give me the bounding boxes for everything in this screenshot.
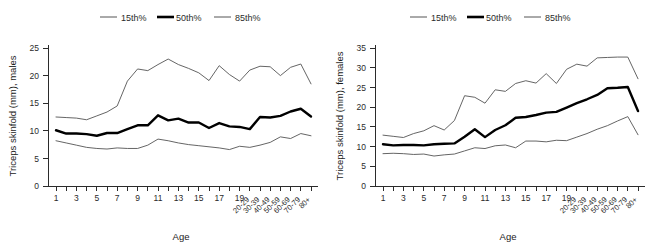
females-x-label-13: 13 xyxy=(501,193,511,203)
females-x-label-3: 3 xyxy=(401,193,406,203)
females-xlabel: Age xyxy=(500,231,517,242)
legend-label-85th: 85th% xyxy=(235,13,261,23)
males-y-label-0: 0 xyxy=(34,181,39,191)
females-x-label-1: 1 xyxy=(381,193,386,203)
legend-label-50th: 50th% xyxy=(176,13,202,23)
males-y-label-20: 20 xyxy=(30,71,40,81)
females-x-label-9: 9 xyxy=(462,193,467,203)
males-x-ticks xyxy=(56,186,311,191)
females-y-label-20: 20 xyxy=(357,102,367,112)
females-x-label-80+: 80+ xyxy=(624,195,640,211)
males-chart-svg: 15th% 50th% 85th% 0 5 10 15 xyxy=(0,0,326,246)
males-ylabel: Triceps skinfold (mm), males xyxy=(7,55,18,176)
females-x-label-5: 5 xyxy=(421,193,426,203)
females-y-label-10: 10 xyxy=(357,142,367,152)
females-x-label-15: 15 xyxy=(521,193,531,203)
legend-label-85th: 85th% xyxy=(545,13,571,23)
females-y-label-5: 5 xyxy=(361,161,366,171)
males-x-label-80+: 80+ xyxy=(297,195,313,211)
males-x-label-1: 1 xyxy=(54,193,59,203)
males-x-label-15: 15 xyxy=(194,193,204,203)
females-y-ticks: 05101520253035 xyxy=(357,43,375,191)
males-x-label-11: 11 xyxy=(154,193,163,203)
females-chart-svg: 15th% 50th% 85th% 05101520253035 1357911… xyxy=(327,0,653,246)
males-y-label-10: 10 xyxy=(30,126,40,136)
females-series-85th xyxy=(383,57,638,137)
males-x-label-7: 7 xyxy=(115,193,120,203)
figure-root: 15th% 50th% 85th% 0 5 10 15 xyxy=(0,0,653,246)
females-y-label-35: 35 xyxy=(357,43,367,53)
females-ylabel: Triceps skinfold (mm), females xyxy=(334,51,345,180)
males-x-rotated-labels: 20-2930-3940-4950-5960-6970-7980+ xyxy=(231,195,313,216)
legend-label-50th: 50th% xyxy=(486,13,512,23)
females-y-label-30: 30 xyxy=(357,63,367,73)
legend-females: 15th% 50th% 85th% xyxy=(410,13,571,23)
males-y-label-25: 25 xyxy=(30,43,40,53)
females-x-label-7: 7 xyxy=(442,193,447,203)
females-x-label-17: 17 xyxy=(541,193,551,203)
males-x-label-9: 9 xyxy=(135,193,140,203)
chart-panel-females: 15th% 50th% 85th% 05101520253035 1357911… xyxy=(327,0,653,246)
females-series-50th xyxy=(383,87,638,145)
males-xlabel: Age xyxy=(173,231,190,242)
males-y-label-5: 5 xyxy=(34,154,39,164)
legend-label-15th: 15th% xyxy=(121,13,147,23)
females-y-label-25: 25 xyxy=(357,83,367,93)
females-series-group xyxy=(383,57,638,156)
males-series-group xyxy=(56,59,311,150)
chart-panel-males: 15th% 50th% 85th% 0 5 10 15 xyxy=(0,0,326,246)
females-x-tick-labels: 135791113151719 xyxy=(381,193,572,203)
males-x-tick-labels: 135791113151719 xyxy=(54,193,245,203)
females-x-rotated-labels: 20-2930-3940-4950-5960-6970-7980+ xyxy=(558,195,640,216)
males-y-label-15: 15 xyxy=(30,98,40,108)
females-y-label-15: 15 xyxy=(357,122,367,132)
females-y-label-0: 0 xyxy=(361,181,366,191)
males-x-label-17: 17 xyxy=(214,193,224,203)
males-series-50th xyxy=(56,109,311,136)
males-series-85th xyxy=(56,59,311,120)
males-x-label-5: 5 xyxy=(94,193,99,203)
legend-males: 15th% 50th% 85th% xyxy=(100,13,261,23)
legend-label-15th: 15th% xyxy=(431,13,457,23)
males-x-label-3: 3 xyxy=(74,193,79,203)
females-x-ticks xyxy=(383,186,638,191)
males-y-ticks: 0 5 10 15 20 25 xyxy=(30,43,48,191)
males-x-label-13: 13 xyxy=(174,193,184,203)
females-x-label-11: 11 xyxy=(481,193,490,203)
